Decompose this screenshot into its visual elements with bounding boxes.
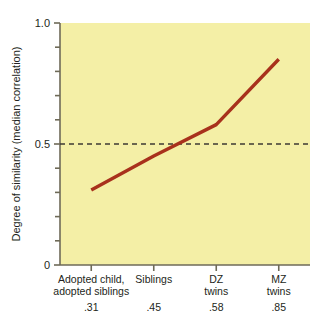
y-axis-ticks xyxy=(54,23,60,265)
x-axis-category-label: MZ xyxy=(271,273,287,285)
y-axis-tick-label: 0.5 xyxy=(35,138,50,150)
y-axis-tick-label: 0 xyxy=(44,259,50,271)
chart-canvas: 1.00.50 Degree of similarity (median cor… xyxy=(0,0,324,319)
similarity-correlation-chart: 1.00.50 Degree of similarity (median cor… xyxy=(0,0,324,319)
y-axis-tick-labels: 1.00.50 xyxy=(35,17,50,271)
x-axis-value-label: .31 xyxy=(84,301,99,313)
y-axis-tick-label: 1.0 xyxy=(35,17,50,29)
x-axis-category-label: twins xyxy=(267,285,291,297)
x-axis-category-label: Adopted child, xyxy=(58,273,125,285)
x-axis-value-label: .45 xyxy=(146,301,161,313)
x-axis-category-label: twins xyxy=(204,285,228,297)
y-axis-title: Degree of similarity (median correlation… xyxy=(10,46,22,241)
x-axis-category-labels: Adopted child,adopted siblingsSiblingsDZ… xyxy=(53,273,290,297)
x-axis-ticks xyxy=(91,265,279,271)
x-axis-category-label: Siblings xyxy=(135,273,172,285)
x-axis-value-label: .85 xyxy=(271,301,286,313)
x-axis-category-label: adopted siblings xyxy=(53,285,129,297)
x-axis-category-label: DZ xyxy=(209,273,224,285)
x-axis-value-label: .58 xyxy=(209,301,224,313)
x-axis-value-labels: .31.45.58.85 xyxy=(84,301,286,313)
